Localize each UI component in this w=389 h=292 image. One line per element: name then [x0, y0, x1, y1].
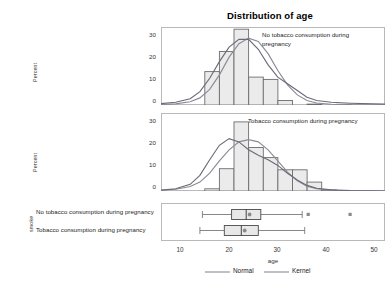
y-tick-top-20: 20 — [134, 53, 156, 60]
y-tick-top-10: 10 — [134, 75, 156, 82]
figure-root: Distribution of age Percent 30 20 10 0 N… — [0, 0, 389, 292]
legend-label-kernel: Kernel — [292, 267, 310, 274]
y-tick-mid-0: 0 — [134, 183, 156, 190]
x-tick-40: 40 — [314, 246, 338, 253]
y-tick-mid-30: 30 — [134, 117, 156, 124]
page-title: Distribution of age — [155, 10, 385, 21]
legend-swatch-normal — [205, 270, 230, 274]
boxplot-row-2 — [200, 226, 305, 236]
x-tick-30: 30 — [265, 246, 289, 253]
y-axis-label-top: Percent — [32, 63, 38, 82]
y-tick-mid-20: 20 — [134, 139, 156, 146]
panel-mid-plot — [161, 113, 385, 191]
y-tick-mid-10: 10 — [134, 161, 156, 168]
box-category-label-1: No tobacco consumption during pregnancy — [36, 208, 156, 217]
y-tick-top-0: 0 — [134, 97, 156, 104]
x-tick-20: 20 — [217, 246, 241, 253]
x-tick-50: 50 — [362, 246, 386, 253]
y-tick-top-30: 30 — [134, 31, 156, 38]
x-tick-10: 10 — [168, 246, 192, 253]
histogram-bars-top — [205, 29, 351, 105]
panel-top-plot — [161, 27, 385, 105]
y-axis-label-box: smoke — [28, 216, 34, 232]
legend-label-normal: Normal — [233, 267, 254, 274]
x-axis-label: age — [253, 257, 293, 264]
panel-box-plot — [161, 203, 385, 241]
box-category-label-2: Tobacco consumption during pregnancy — [36, 226, 162, 235]
histogram-bars-mid — [205, 122, 337, 191]
legend-swatch-kernel — [264, 270, 289, 274]
y-axis-label-mid: Percent — [32, 153, 38, 172]
boxplot-row-1 — [202, 210, 351, 220]
